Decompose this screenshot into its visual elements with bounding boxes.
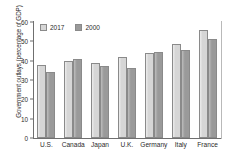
bar[interactable] (154, 52, 163, 138)
y-axis-tick: 50 (21, 38, 33, 45)
bar-group (87, 22, 114, 138)
legend-swatch-icon (40, 24, 47, 31)
y-axis-tick-label: 10 (21, 115, 30, 122)
bar[interactable] (127, 68, 136, 138)
bar-group (114, 22, 141, 138)
bar[interactable] (145, 53, 154, 138)
legend-label: 2017 (50, 24, 64, 31)
bar[interactable] (73, 59, 82, 138)
y-axis-tick-label: 20 (21, 96, 30, 103)
legend-item[interactable]: 2000 (75, 24, 99, 31)
legend-item[interactable]: 2017 (40, 24, 64, 31)
bar-group (33, 22, 60, 138)
y-axis-tick: 0 (24, 135, 33, 142)
bar-group (167, 22, 194, 138)
y-axis-tick: 60 (21, 19, 33, 26)
x-axis-line (33, 138, 222, 139)
bar[interactable] (100, 66, 109, 139)
y-axis-tick-label: 60 (21, 19, 30, 26)
x-axis-tick-label: France (194, 141, 221, 148)
x-axis-tick-label: U.S. (33, 141, 60, 148)
bar[interactable] (118, 57, 127, 138)
y-axis-tick: 40 (21, 57, 33, 64)
plot-area: 0102030405060 (33, 22, 221, 138)
bar[interactable] (172, 44, 181, 138)
bar[interactable] (181, 50, 190, 138)
x-axis-tick-label: Canada (60, 141, 87, 148)
legend-label: 2000 (85, 24, 99, 31)
bar[interactable] (64, 61, 73, 138)
x-axis-tick-labels: U.S.CanadaJapanU.K.GermanyItalyFrance (33, 141, 221, 148)
legend-swatch-icon (75, 24, 82, 31)
x-axis-tick-label: Italy (167, 141, 194, 148)
y-axis-tick: 20 (21, 96, 33, 103)
bar[interactable] (208, 39, 217, 138)
x-axis-tick-label: Germany (140, 141, 167, 148)
x-axis-tick-label: U.K. (113, 141, 140, 148)
y-axis-tick-label: 40 (21, 57, 30, 64)
y-axis-tick: 30 (21, 77, 33, 84)
bar[interactable] (199, 30, 208, 138)
y-axis-tick: 10 (21, 115, 33, 122)
bar-group (194, 22, 221, 138)
bar-group (60, 22, 87, 138)
bar[interactable] (91, 63, 100, 138)
bar-chart: Government outlays (percentage of GDP) 0… (0, 0, 236, 161)
bar-group (140, 22, 167, 138)
bar-groups (33, 22, 221, 138)
plot-right-border (221, 21, 222, 139)
y-axis-tick-label: 30 (21, 77, 30, 84)
y-axis-tick-label: 50 (21, 38, 30, 45)
bar[interactable] (37, 65, 46, 138)
chart-legend: 20172000 (40, 24, 100, 31)
x-axis-tick-label: Japan (87, 141, 114, 148)
bar[interactable] (46, 72, 55, 138)
